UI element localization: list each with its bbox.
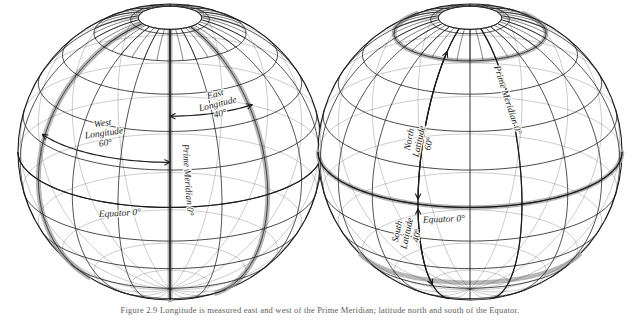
globes-figure: WestLongitude60°EastLongitude40°Prime Me… xyxy=(0,0,640,320)
label-line: Equator 0° xyxy=(422,213,466,225)
latitude-globe: NorthLatitude60°SouthLatitude40°Prime Me… xyxy=(318,4,622,300)
figure-caption: Figure 2.9 Longitude is measured east an… xyxy=(0,305,640,320)
globes-svg: WestLongitude60°EastLongitude40°Prime Me… xyxy=(0,0,640,320)
longitude-globe: WestLongitude60°EastLongitude40°Prime Me… xyxy=(18,4,322,300)
label-line: 60° xyxy=(98,137,113,149)
equator-label-right: Equator 0° xyxy=(422,213,466,225)
